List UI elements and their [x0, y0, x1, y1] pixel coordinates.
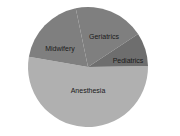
label-pediatrics: Pediatrics	[113, 57, 144, 64]
label-geriatrics: Geriatrics	[89, 33, 119, 40]
pie-slices	[28, 7, 148, 127]
pie-chart	[0, 0, 180, 136]
label-anesthesia: Anesthesia	[71, 87, 106, 94]
label-midwifery: Midwifery	[45, 45, 75, 52]
